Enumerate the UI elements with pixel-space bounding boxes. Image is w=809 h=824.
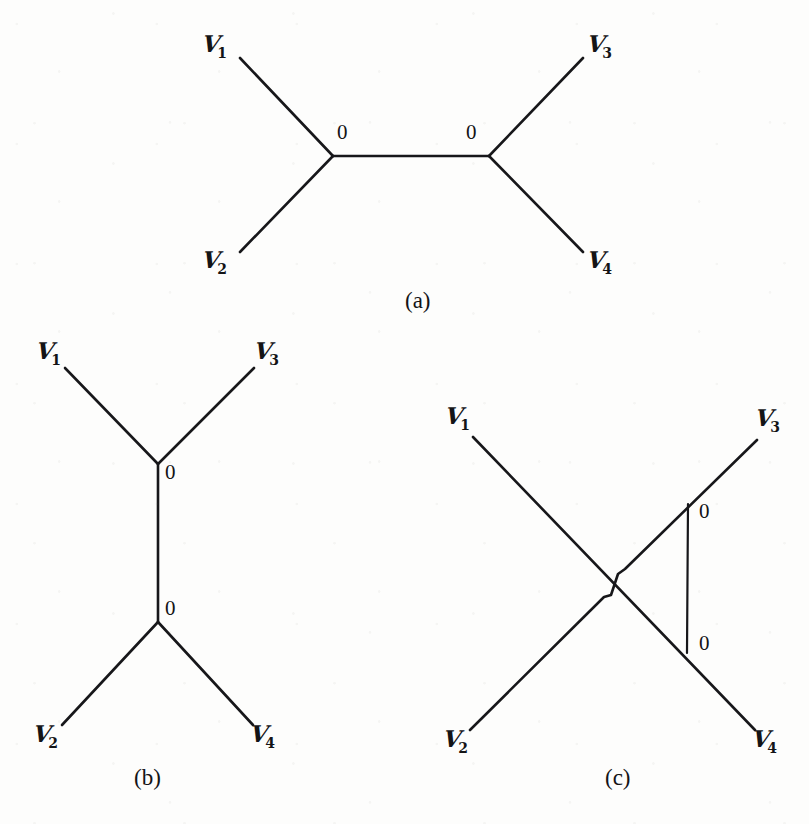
panel-b-edges	[62, 368, 254, 725]
subscript: 3	[269, 352, 279, 368]
panel-c-caption: (c)	[605, 766, 631, 789]
edge-a-v2-internal-left	[240, 156, 333, 252]
panel-c-vertex-label-v2: V2	[444, 727, 471, 750]
panel-a-vertex-label-v1: V1	[203, 32, 230, 55]
subscript: 3	[770, 419, 780, 435]
edge-a-v1-internal-left	[240, 58, 333, 156]
edge-b-internal-bottom-v2	[62, 622, 158, 725]
panel-a-vertex-label-v4: V4	[588, 248, 615, 271]
subscript: 1	[460, 417, 470, 433]
edge-b-v3-internal-top	[158, 368, 254, 464]
panel-c-vertex-label-v3: V3	[756, 406, 783, 429]
figure-root: V1 V2 V3 V4 0 0 (a) V1 V3 V2 V4 0 0 (b) …	[0, 0, 809, 824]
panel-b-weight-bottom: 0	[165, 598, 176, 619]
panel-b-vertex-label-v3: V3	[255, 339, 282, 362]
panel-a-caption: (a)	[405, 289, 431, 312]
panel-c-weight-top: 0	[699, 501, 710, 522]
edge-b-v1-internal-top	[65, 368, 158, 464]
panel-a-vertex-label-v2: V2	[203, 248, 230, 271]
subscript: 4	[767, 740, 777, 756]
panel-a-weight-right: 0	[466, 122, 477, 143]
panel-c-weight-bottom: 0	[699, 633, 710, 654]
panel-a-weight-left: 0	[337, 122, 348, 143]
panel-b-vertex-label-v2: V2	[34, 722, 61, 745]
panel-b-vertex-label-v4: V4	[251, 722, 278, 745]
panel-b-vertex-label-v1: V1	[37, 339, 64, 362]
panel-c-vertex-label-v4: V4	[753, 727, 780, 750]
edge-a-internal-right-v4	[489, 156, 583, 252]
subscript: 2	[458, 740, 468, 756]
subscript: 1	[51, 352, 61, 368]
panel-b-caption: (b)	[134, 766, 161, 789]
figure-canvas	[0, 0, 809, 824]
panel-b-weight-top: 0	[165, 462, 176, 483]
edge-c-vertical-connector	[687, 504, 688, 653]
edge-a-internal-right-v3	[489, 58, 583, 156]
subscript: 3	[602, 45, 612, 61]
panel-c-edges	[470, 437, 757, 730]
subscript: 4	[602, 261, 612, 277]
panel-a-edges	[240, 58, 583, 252]
subscript: 4	[265, 735, 275, 751]
edge-b-internal-bottom-v4	[158, 622, 253, 725]
panel-a-vertex-label-v3: V3	[588, 32, 615, 55]
subscript: 2	[217, 261, 227, 277]
subscript: 1	[217, 45, 227, 61]
panel-c-vertex-label-v1: V1	[446, 404, 473, 427]
subscript: 2	[48, 735, 58, 751]
